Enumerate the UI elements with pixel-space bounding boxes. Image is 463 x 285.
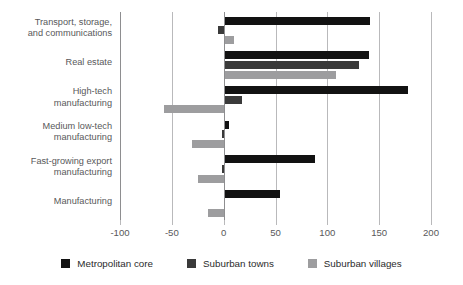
bar bbox=[224, 96, 243, 104]
legend-item-metro[interactable]: Metropolitan core bbox=[61, 258, 153, 269]
bar bbox=[218, 26, 223, 34]
bar bbox=[224, 86, 409, 94]
bar bbox=[224, 155, 315, 163]
x-tick-label: 50 bbox=[270, 227, 281, 238]
bar bbox=[208, 209, 224, 217]
chart-legend: Metropolitan coreSuburban townsSuburban … bbox=[0, 253, 463, 273]
bar bbox=[198, 175, 224, 183]
legend-swatch-icon bbox=[187, 259, 196, 268]
bar bbox=[192, 140, 224, 148]
x-tick-label: 200 bbox=[423, 227, 439, 238]
bar bbox=[224, 71, 336, 79]
x-tick bbox=[379, 220, 380, 225]
legend-label: Suburban towns bbox=[203, 258, 274, 269]
x-tick-label: 150 bbox=[371, 227, 387, 238]
x-tick bbox=[431, 220, 432, 225]
category-label: Real estate bbox=[66, 57, 112, 68]
category-axis: Transport, storage, and communicationsRe… bbox=[0, 12, 119, 220]
x-tick-label: -100 bbox=[110, 227, 129, 238]
legend-swatch-icon bbox=[308, 259, 317, 268]
bar-group bbox=[120, 151, 431, 186]
bar-group bbox=[120, 81, 431, 116]
bar bbox=[224, 61, 360, 69]
x-tick-label: 0 bbox=[221, 227, 226, 238]
bar-group bbox=[120, 12, 431, 47]
zero-line bbox=[224, 12, 225, 220]
bar bbox=[224, 51, 369, 59]
category-label: Medium low-tech manufacturing bbox=[43, 121, 112, 144]
x-axis: -100-50050100150200 bbox=[120, 220, 431, 244]
legend-label: Suburban villages bbox=[324, 258, 402, 269]
bar bbox=[224, 190, 280, 198]
bar-chart: Transport, storage, and communicationsRe… bbox=[0, 0, 463, 285]
plot-area bbox=[120, 12, 431, 220]
category-label: Transport, storage, and communications bbox=[28, 17, 112, 40]
bar bbox=[164, 105, 224, 113]
bar bbox=[224, 17, 370, 25]
category-label: Manufacturing bbox=[54, 196, 112, 207]
bar bbox=[224, 36, 234, 44]
bar-group bbox=[120, 47, 431, 82]
legend-item-towns[interactable]: Suburban towns bbox=[187, 258, 274, 269]
x-tick bbox=[172, 220, 173, 225]
x-tick-label: -50 bbox=[165, 227, 179, 238]
bar-group bbox=[120, 185, 431, 220]
legend-label: Metropolitan core bbox=[77, 258, 153, 269]
category-label: Fast-growing export manufacturing bbox=[31, 156, 112, 179]
x-tick bbox=[327, 220, 328, 225]
legend-item-villages[interactable]: Suburban villages bbox=[308, 258, 402, 269]
bar-group bbox=[120, 116, 431, 151]
gridline-200 bbox=[431, 12, 432, 220]
x-tick bbox=[120, 220, 121, 225]
category-label: High-tech manufacturing bbox=[54, 86, 112, 109]
x-tick-label: 100 bbox=[319, 227, 335, 238]
x-tick bbox=[276, 220, 277, 225]
x-tick bbox=[224, 220, 225, 225]
legend-swatch-icon bbox=[61, 259, 70, 268]
